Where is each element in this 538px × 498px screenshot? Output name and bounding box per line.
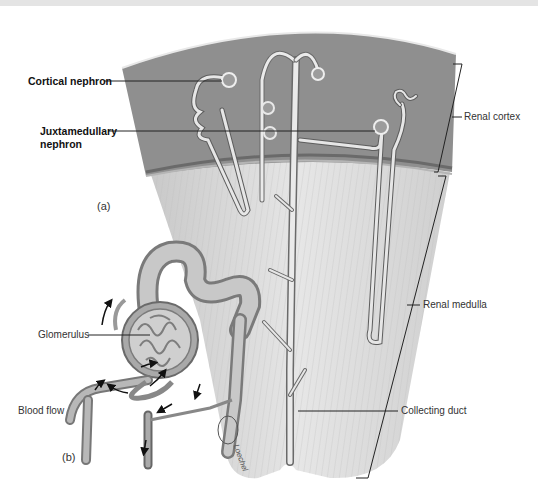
- label-juxtamedullary-nephron-line2: nephron: [40, 138, 82, 150]
- label-cortical-nephron: Cortical nephron: [28, 75, 112, 87]
- label-juxtamedullary-nephron-line1: Juxtamedullary: [40, 125, 117, 137]
- label-glomerulus: Glomerulus: [38, 329, 89, 341]
- label-collecting-duct: Collecting duct: [401, 405, 467, 417]
- label-renal-cortex: Renal cortex: [464, 111, 520, 123]
- label-renal-medulla: Renal medulla: [423, 299, 487, 311]
- panel-label-a: (a): [97, 200, 110, 212]
- label-blood-flow: Blood flow: [18, 405, 64, 417]
- renal-medulla-region: [150, 161, 450, 478]
- panel-label-b: (b): [62, 451, 75, 463]
